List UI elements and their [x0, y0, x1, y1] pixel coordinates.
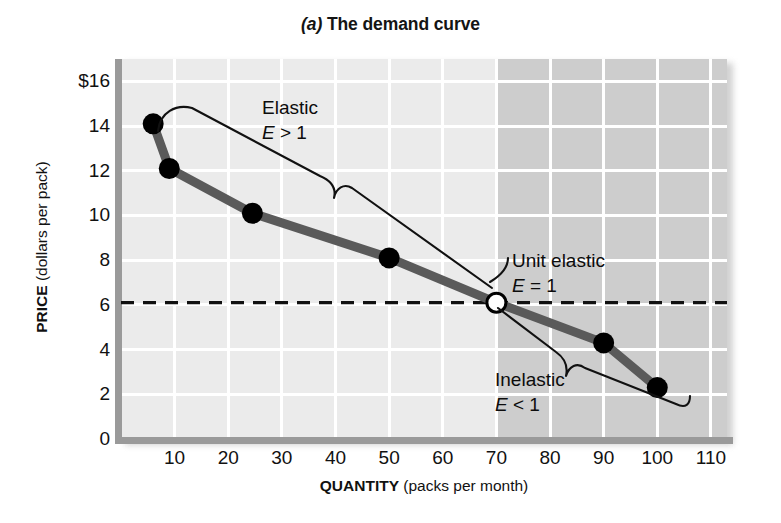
- y-tick-label: 10: [50, 204, 110, 226]
- x-tick-label: 40: [325, 447, 346, 469]
- x-tick-label: 110: [696, 447, 726, 469]
- x-axis-title-bold: QUANTITY: [320, 477, 399, 494]
- y-axis-title: PRICE (dollars per pack): [33, 97, 51, 397]
- annotation-elastic-title: Elastic: [262, 95, 318, 120]
- gridline-horizontal: [121, 169, 727, 172]
- gridline-vertical: [388, 59, 391, 439]
- y-tick-label: $16: [50, 70, 110, 92]
- x-tick-label: 80: [539, 447, 560, 469]
- y-tick-label: 8: [50, 249, 110, 271]
- x-tick-label: 60: [432, 447, 453, 469]
- y-axis-tick-labels: $1614121086420: [42, 0, 110, 523]
- y-axis-line: [115, 59, 122, 441]
- y-tick-label: 4: [50, 339, 110, 361]
- annotation-unit-formula: E = 1: [512, 273, 605, 298]
- y-tick-label: 0: [50, 428, 110, 450]
- plot-area: [121, 59, 727, 439]
- x-tick-label: 20: [218, 447, 239, 469]
- y-tick-label: 6: [50, 294, 110, 316]
- gridline-vertical: [709, 59, 712, 439]
- title-prefix: (a): [301, 14, 322, 34]
- annotation-inelastic-title: Inelastic: [495, 367, 565, 392]
- title-text: The demand curve: [322, 14, 480, 34]
- y-axis-title-rest: (dollars per pack): [33, 161, 50, 285]
- gridline-horizontal: [121, 80, 727, 83]
- unit-variable: E: [512, 275, 525, 296]
- x-axis-title: QUANTITY (packs per month): [121, 477, 727, 495]
- annotation-unit-elastic: Unit elastic E = 1: [512, 248, 605, 298]
- y-tick-label: 2: [50, 383, 110, 405]
- gridline-horizontal: [121, 125, 727, 128]
- x-tick-label: 10: [164, 447, 185, 469]
- y-tick-label: 14: [50, 115, 110, 137]
- inelastic-variable: E: [495, 394, 508, 415]
- x-tick-label: 50: [379, 447, 400, 469]
- page-title: (a) The demand curve: [0, 14, 781, 35]
- annotation-elastic-formula: E > 1: [262, 120, 318, 145]
- elastic-relation: > 1: [275, 122, 307, 143]
- gridline-horizontal: [121, 393, 727, 396]
- annotation-elastic: Elastic E > 1: [262, 95, 318, 145]
- y-tick-label: 12: [50, 160, 110, 182]
- gridline-vertical: [656, 59, 659, 439]
- elastic-variable: E: [262, 122, 275, 143]
- annotation-inelastic: Inelastic E < 1: [495, 367, 565, 417]
- unit-relation: = 1: [525, 275, 557, 296]
- gridline-vertical: [334, 59, 337, 439]
- x-tick-label: 30: [271, 447, 292, 469]
- gridline-vertical: [173, 59, 176, 439]
- gridline-horizontal: [121, 259, 727, 262]
- x-tick-label: 70: [486, 447, 507, 469]
- gridline-vertical: [227, 59, 230, 439]
- gridline-horizontal: [121, 303, 727, 306]
- annotation-unit-title: Unit elastic: [512, 248, 605, 273]
- x-axis-title-rest: (packs per month): [399, 477, 528, 494]
- gridline-horizontal: [121, 214, 727, 217]
- inelastic-relation: < 1: [508, 394, 540, 415]
- y-axis-title-bold: PRICE: [33, 285, 50, 332]
- annotation-inelastic-formula: E < 1: [495, 392, 565, 417]
- gridline-vertical: [441, 59, 444, 439]
- gridline-horizontal: [121, 348, 727, 351]
- x-axis-line: [115, 437, 733, 444]
- x-tick-label: 100: [641, 447, 673, 469]
- x-tick-label: 90: [593, 447, 614, 469]
- demand-curve-figure: (a) The demand curve $1614121086420 1020…: [0, 0, 781, 523]
